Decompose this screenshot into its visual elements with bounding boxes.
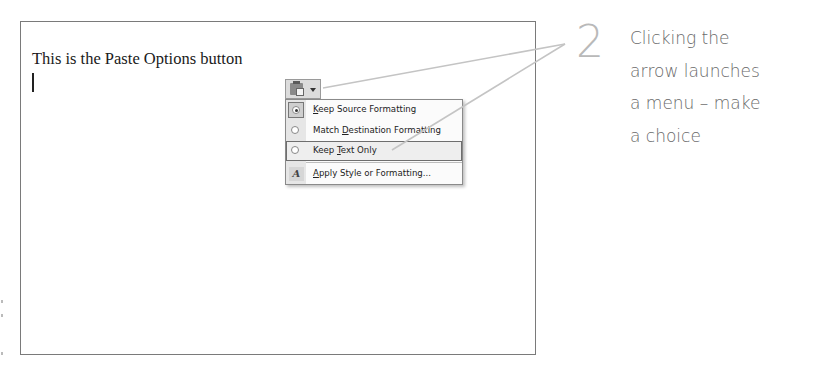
document-window <box>20 21 536 355</box>
clipboard-paste-icon <box>290 83 303 95</box>
margin-marks <box>1 300 5 360</box>
menu-item-keep-text-only[interactable]: Keep Text Only <box>286 141 462 161</box>
radio-icon <box>291 146 299 154</box>
paste-options-button[interactable] <box>285 79 321 99</box>
dropdown-arrow-icon[interactable] <box>310 88 316 92</box>
step-number: 2 <box>576 16 604 67</box>
menu-item-label: Keep Text Only <box>313 145 377 155</box>
menu-item-keep-source-formatting[interactable]: Keep Source Formatting <box>286 100 462 120</box>
style-formatting-icon: A <box>289 167 304 181</box>
step-description-line: a menu – make <box>630 87 827 120</box>
menu-item-apply-style-or-formatting[interactable]: A Apply Style or Formatting... <box>286 164 462 184</box>
menu-item-label: Keep Source Formatting <box>313 104 416 114</box>
step-description-line: Clicking the <box>630 22 827 55</box>
menu-item-label: Apply Style or Formatting... <box>313 168 431 178</box>
document-text: This is the Paste Options button <box>32 49 242 69</box>
step-description-line: a choice <box>630 120 827 153</box>
radio-icon <box>291 126 299 134</box>
step-description-line: arrow launches <box>630 55 827 88</box>
radio-checked-icon <box>288 102 304 118</box>
menu-item-label: Match Destination Formatting <box>313 125 441 135</box>
text-cursor <box>32 73 34 92</box>
step-description: Clicking the arrow launches a menu – mak… <box>630 22 827 152</box>
menu-separator <box>306 162 462 163</box>
menu-item-match-destination-formatting[interactable]: Match Destination Formatting <box>286 121 462 141</box>
paste-options-menu: Keep Source Formatting Match Destination… <box>285 99 463 185</box>
